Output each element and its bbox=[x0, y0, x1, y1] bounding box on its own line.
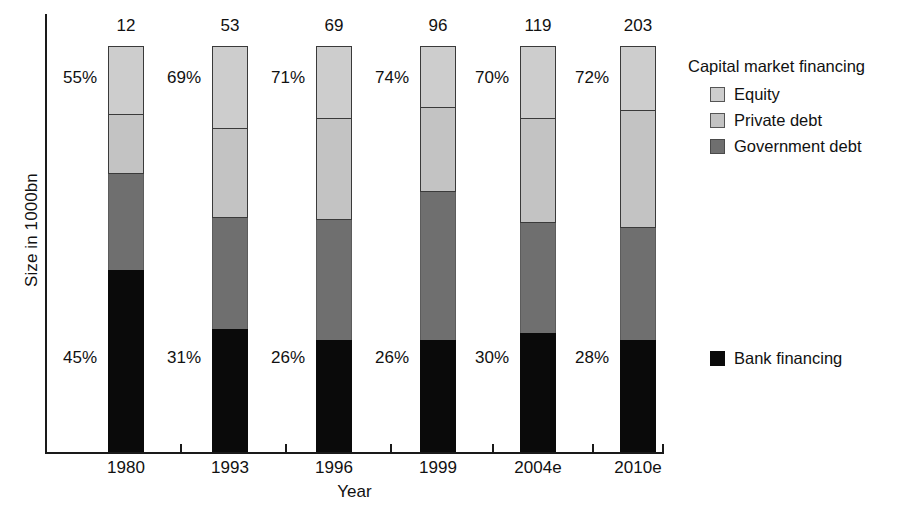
legend-label-private-debt: Private debt bbox=[734, 111, 822, 130]
legend-bank-financing[interactable]: Bank financing bbox=[710, 349, 842, 368]
y-axis-end-cap bbox=[45, 444, 47, 453]
x-axis-title: Year bbox=[45, 482, 664, 502]
bar-segment-bank-financing[interactable] bbox=[620, 340, 656, 452]
x-axis-end-cap bbox=[662, 444, 664, 453]
bar-total-label: 53 bbox=[185, 16, 275, 36]
x-axis-tick-label: 1999 bbox=[383, 458, 493, 478]
bank-financing-percent-label: 28% bbox=[563, 348, 609, 368]
bar-segment-private-debt[interactable] bbox=[212, 129, 248, 218]
bar-segment-bank-financing[interactable] bbox=[520, 333, 556, 452]
bar-segment-equity[interactable] bbox=[316, 46, 352, 119]
capital-market-percent-label: 55% bbox=[51, 68, 97, 88]
capital-market-percent-label: 72% bbox=[563, 68, 609, 88]
capital-market-percent-label: 70% bbox=[463, 68, 509, 88]
bar-segment-bank-financing[interactable] bbox=[420, 340, 456, 452]
bar-segment-private-debt[interactable] bbox=[420, 108, 456, 192]
legend-swatch-equity-icon bbox=[710, 87, 725, 102]
capital-market-percent-label: 71% bbox=[259, 68, 305, 88]
bar-total-label: 96 bbox=[393, 16, 483, 36]
bar-segment-equity[interactable] bbox=[520, 46, 556, 119]
bank-financing-percent-label: 30% bbox=[463, 348, 509, 368]
bar-segment-bank-financing[interactable] bbox=[212, 329, 248, 452]
bank-financing-percent-label: 31% bbox=[155, 348, 201, 368]
x-axis-tick bbox=[592, 444, 594, 452]
x-axis-line bbox=[45, 452, 664, 454]
legend-swatch-bank-icon bbox=[710, 351, 725, 366]
bank-financing-percent-label: 26% bbox=[259, 348, 305, 368]
x-axis-tick bbox=[180, 444, 182, 452]
legend-item-equity[interactable]: Equity bbox=[710, 82, 898, 106]
bar-segment-equity[interactable] bbox=[108, 46, 144, 115]
bar-segment-equity[interactable] bbox=[212, 46, 248, 129]
bar-total-label: 203 bbox=[593, 16, 683, 36]
bank-financing-percent-label: 45% bbox=[51, 348, 97, 368]
bar-segment-government-debt[interactable] bbox=[108, 174, 144, 270]
bar-segment-government-debt[interactable] bbox=[520, 223, 556, 333]
bar-total-label: 69 bbox=[289, 16, 379, 36]
legend-item-private-debt[interactable]: Private debt bbox=[710, 108, 898, 132]
x-axis-tick-label: 1980 bbox=[71, 458, 181, 478]
bar-segment-private-debt[interactable] bbox=[620, 111, 656, 228]
y-axis-line bbox=[45, 14, 47, 453]
bar-segment-government-debt[interactable] bbox=[316, 220, 352, 340]
legend-item-government-debt[interactable]: Government debt bbox=[710, 134, 898, 158]
bar-segment-bank-financing[interactable] bbox=[316, 340, 352, 452]
legend-capital-rows: EquityPrivate debtGovernment debt bbox=[688, 82, 898, 158]
legend-capital-market: Capital market financing EquityPrivate d… bbox=[688, 57, 898, 158]
bar-segment-government-debt[interactable] bbox=[212, 218, 248, 329]
bar-segment-equity[interactable] bbox=[420, 46, 456, 108]
x-axis-tick bbox=[285, 444, 287, 452]
x-axis-tick-label: 2010e bbox=[583, 458, 693, 478]
y-axis-title: Size in 1000bn bbox=[22, 115, 42, 345]
chart-canvas: Size in 1000bn Year 12198055%45%53199369… bbox=[0, 0, 901, 511]
bar-segment-private-debt[interactable] bbox=[108, 115, 144, 174]
x-axis-tick-label: 1996 bbox=[279, 458, 389, 478]
legend-swatch-government-debt-icon bbox=[710, 139, 725, 154]
x-axis-tick-label: 1993 bbox=[175, 458, 285, 478]
legend-swatch-private-debt-icon bbox=[710, 113, 725, 128]
bar-segment-government-debt[interactable] bbox=[620, 228, 656, 340]
bar-total-label: 119 bbox=[493, 16, 583, 36]
legend-label-government-debt: Government debt bbox=[734, 137, 862, 156]
bank-financing-percent-label: 26% bbox=[363, 348, 409, 368]
legend-label-bank: Bank financing bbox=[734, 349, 842, 368]
bar-segment-bank-financing[interactable] bbox=[108, 270, 144, 452]
legend-label-equity: Equity bbox=[734, 85, 780, 104]
bar-total-label: 12 bbox=[81, 16, 171, 36]
x-axis-tick bbox=[390, 444, 392, 452]
legend-capital-title: Capital market financing bbox=[688, 57, 898, 76]
capital-market-percent-label: 69% bbox=[155, 68, 201, 88]
x-axis-tick bbox=[492, 444, 494, 452]
bar-segment-government-debt[interactable] bbox=[420, 192, 456, 340]
capital-market-percent-label: 74% bbox=[363, 68, 409, 88]
bar-segment-private-debt[interactable] bbox=[316, 119, 352, 220]
bar-segment-equity[interactable] bbox=[620, 46, 656, 111]
x-axis-tick-label: 2004e bbox=[483, 458, 593, 478]
bar-segment-private-debt[interactable] bbox=[520, 119, 556, 223]
